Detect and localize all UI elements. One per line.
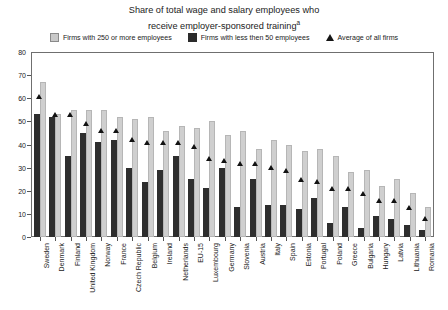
average-marker-icon <box>406 205 412 210</box>
y-axis-tick-label: 0 <box>22 234 26 241</box>
legend-item-small-firms: Firms with less then 50 employees <box>188 33 310 42</box>
legend-swatch-small-firms-icon <box>188 33 197 42</box>
bar-group <box>358 52 370 237</box>
y-axis-tick-mark <box>27 168 31 169</box>
x-axis-tick-mark <box>256 237 257 241</box>
x-axis-tick-mark <box>379 237 380 241</box>
x-axis-label: Belgium <box>151 243 158 268</box>
average-marker-icon <box>206 156 212 161</box>
bar-group <box>250 52 262 237</box>
average-marker-icon <box>283 168 289 173</box>
y-axis-tick-mark <box>27 145 31 146</box>
average-marker-icon <box>360 191 366 196</box>
average-marker-icon <box>52 112 58 117</box>
bar-group <box>296 52 308 237</box>
y-axis-tick-label: 40 <box>18 141 26 148</box>
bar-group <box>373 52 385 237</box>
average-marker-icon <box>237 161 243 166</box>
bar-large-firms <box>348 172 354 237</box>
chart-root: Share of total wage and salary employees… <box>0 0 448 310</box>
x-axis-label: United Kingdom <box>89 243 96 293</box>
bar-group <box>49 52 61 237</box>
bar-large-firms <box>163 131 169 237</box>
x-axis-tick-mark <box>209 237 210 241</box>
bar-group <box>404 52 416 237</box>
bar-large-firms <box>394 179 400 237</box>
bar-large-firms <box>317 149 323 237</box>
y-axis: 01020304050607080 <box>0 52 31 238</box>
x-axis-tick-mark <box>71 237 72 241</box>
chart-legend: Firms with 250 or more employees Firms w… <box>0 33 448 42</box>
bar-group <box>126 52 138 237</box>
x-axis-label: Ireland <box>166 243 173 264</box>
bar-group <box>280 52 292 237</box>
bar-large-firms <box>286 145 292 238</box>
average-marker-icon <box>113 128 119 133</box>
x-axis-label: EU-15 <box>197 243 204 263</box>
x-axis-label: Norway <box>104 243 111 267</box>
x-axis-tick-mark <box>410 237 411 241</box>
legend-item-average: Average of all firms <box>326 34 399 42</box>
bar-group <box>203 52 215 237</box>
x-axis-tick-mark <box>286 237 287 241</box>
average-marker-icon <box>129 137 135 142</box>
x-axis-tick-mark <box>179 237 180 241</box>
x-axis-label: Denmark <box>58 243 65 271</box>
chart-title-line1: Share of total wage and salary employees… <box>129 5 320 15</box>
bar-group <box>327 52 339 237</box>
legend-label-small-firms: Firms with less then 50 employees <box>201 34 310 42</box>
y-axis-tick-mark <box>27 191 31 192</box>
average-marker-icon <box>376 198 382 203</box>
bar-group <box>34 52 46 237</box>
x-axis-tick-mark <box>163 237 164 241</box>
x-axis-tick-mark <box>101 237 102 241</box>
chart-title: Share of total wage and salary employees… <box>0 4 448 32</box>
x-axis-label: Spain <box>289 243 296 261</box>
bar-group <box>234 52 246 237</box>
average-marker-icon <box>391 198 397 203</box>
x-axis-label: Italy <box>274 243 281 256</box>
bar-large-firms <box>71 110 77 237</box>
x-axis-label: Latvia <box>397 243 404 262</box>
x-axis-tick-mark <box>194 237 195 241</box>
bar-large-firms <box>379 186 385 237</box>
y-axis-tick-label: 20 <box>18 187 26 194</box>
x-axis-label: Greece <box>351 243 358 266</box>
bar-large-firms <box>333 156 339 237</box>
bar-group <box>342 52 354 237</box>
y-axis-tick-mark <box>27 75 31 76</box>
x-axis-label: Romania <box>428 243 435 271</box>
bar-group <box>265 52 277 237</box>
average-marker-icon <box>422 216 428 221</box>
average-marker-icon <box>67 112 73 117</box>
average-marker-icon <box>221 158 227 163</box>
bar-large-firms <box>148 117 154 237</box>
x-axis-tick-mark <box>302 237 303 241</box>
average-marker-icon <box>144 140 150 145</box>
legend-label-average: Average of all firms <box>338 34 399 42</box>
x-axis-label: Austria <box>259 243 266 265</box>
x-axis-label: Netherlands <box>182 243 189 281</box>
bar-group <box>173 52 185 237</box>
chart-title-line2: receive employer-sponsored training <box>148 21 297 31</box>
x-axis-tick-mark <box>394 237 395 241</box>
x-axis-label: France <box>120 243 127 265</box>
bar-large-firms <box>410 193 416 237</box>
average-marker-icon <box>36 94 42 99</box>
average-marker-icon <box>314 179 320 184</box>
chart-title-footnote-marker: a <box>297 19 301 26</box>
x-axis-tick-mark <box>271 237 272 241</box>
y-axis-tick-mark <box>27 98 31 99</box>
x-axis-tick-mark <box>317 237 318 241</box>
x-axis-label: Poland <box>336 243 343 265</box>
average-marker-icon <box>191 144 197 149</box>
x-axis-tick-mark <box>333 237 334 241</box>
x-axis-tick-mark <box>86 237 87 241</box>
bar-large-firms <box>55 114 61 237</box>
bar-group <box>95 52 107 237</box>
x-axis-tick-mark <box>132 237 133 241</box>
x-axis-labels: SwedenDenmarkFinlandUnited KingdomNorway… <box>32 243 433 309</box>
bar-large-firms <box>209 121 215 237</box>
x-axis-tick-mark <box>348 237 349 241</box>
x-axis-tick-mark <box>55 237 56 241</box>
